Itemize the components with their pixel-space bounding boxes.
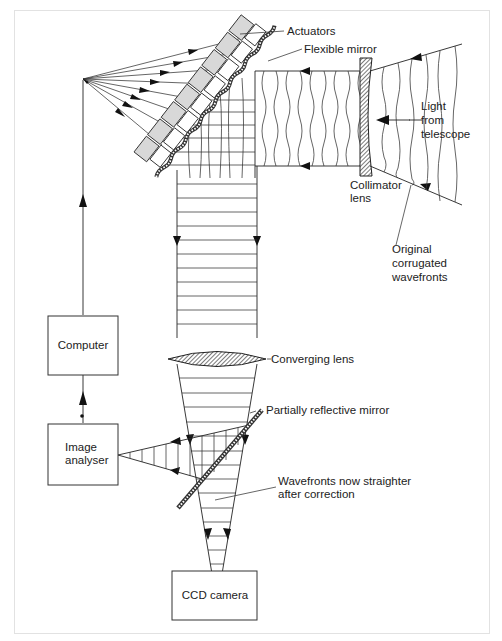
label-light-from-telescope: Light from telescope [421,100,470,140]
svg-text:Wavefronts now straighter: Wavefronts now straighter [278,475,411,487]
converging-cone [177,364,257,604]
svg-text:telescope: telescope [421,128,470,140]
label-flexible-mirror: Flexible mirror [304,43,377,55]
svg-text:analyser: analyser [65,454,109,466]
svg-text:corrugated: corrugated [392,257,447,269]
svg-text:Image: Image [65,441,97,453]
corrected-beam [173,166,261,338]
collimated-beam [255,67,370,170]
label-actuators: Actuators [287,25,336,37]
svg-text:after correction: after correction [278,488,355,500]
svg-text:Original: Original [392,243,432,255]
analyser-to-computer-line [79,375,87,423]
arrow-up-icon [79,194,87,207]
converging-lens [168,352,266,367]
adaptive-optics-diagram: Actuators Flexible mirror Light from tel… [0,0,502,641]
label-collimator-lens: Collimator lens [350,179,402,204]
computer-feedback-line [79,80,87,315]
svg-text:Computer: Computer [58,339,109,351]
ccd-camera-box: CCD camera [172,571,257,620]
svg-text:from: from [421,114,444,126]
label-converging-lens: Converging lens [271,353,354,365]
svg-text:Collimator: Collimator [350,179,402,191]
svg-text:CCD camera: CCD camera [182,589,249,601]
label-wavefronts-straighter: Wavefronts now straighter after correcti… [278,475,411,500]
computer-box: Computer [48,316,118,375]
label-original-wavefronts: Original corrugated wavefronts [391,243,448,283]
label-partially-reflective-mirror: Partially reflective mirror [266,404,389,416]
image-analyser-box: Image analyser [48,424,118,485]
arrow-left-icon [376,115,389,125]
svg-text:wavefronts: wavefronts [391,271,448,283]
reflected-cone [118,425,249,479]
svg-text:lens: lens [350,192,371,204]
collimator-lens [360,58,372,176]
svg-text:Light: Light [421,100,447,112]
arrow-up-icon [79,391,87,405]
